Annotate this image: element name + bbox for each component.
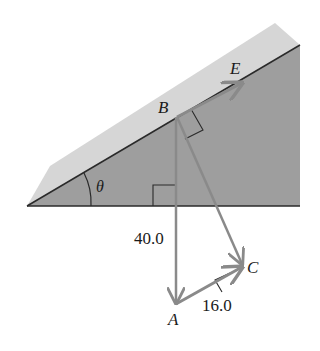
- label-b: B: [158, 98, 169, 117]
- label-e: E: [229, 59, 241, 78]
- length-ac-label: 16.0: [202, 296, 232, 315]
- theta-label: θ: [96, 178, 104, 195]
- diagram-canvas: θ B E C A 40.0 16.0: [0, 0, 320, 351]
- label-a: A: [167, 310, 179, 329]
- length-ba-label: 40.0: [134, 229, 164, 248]
- label-c: C: [247, 258, 259, 277]
